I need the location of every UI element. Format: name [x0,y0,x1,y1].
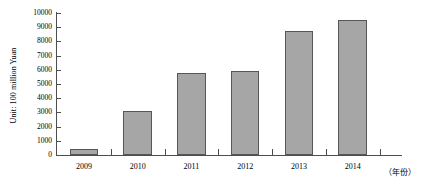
y-axis-tick-label-text: 10000 [22,9,52,17]
y-axis-tick-label-text: 5000 [22,80,52,88]
x-axis-tick-label: 2011 [166,162,216,172]
bar [123,111,151,155]
y-axis-tick-label: 2000 [18,123,52,131]
y-axis-tick-label-text: 6000 [22,66,52,74]
y-axis-tick-label: 10000 [18,9,52,17]
x-axis-tick [326,149,327,155]
x-axis-tick-label: 2009 [59,162,109,172]
x-axis-tick [272,149,273,155]
y-axis-tick-label: 3000 [18,108,52,116]
bar [177,73,205,155]
y-axis-tick-label-text: 4000 [22,94,52,102]
y-axis-tick-label-text: 3000 [22,108,52,116]
y-axis-tick-label: 8000 [18,37,52,45]
bar [231,71,259,155]
x-axis-tick [218,149,219,155]
y-axis-tick-label-text: 8000 [22,37,52,45]
y-axis-tick-label: 7000 [18,52,52,60]
x-axis-tick [165,149,166,155]
y-axis-tick-label: 9000 [18,23,52,31]
bar-chart-figure: Unit: 100 million Yuan 01000200030004000… [0,0,428,192]
x-axis-tick [111,149,112,155]
bar [285,31,313,155]
y-axis-tick-label: 6000 [18,66,52,74]
x-axis-tick [380,149,381,155]
y-axis-tick-label-text: 7000 [22,52,52,60]
y-axis-tick-label: 1000 [18,137,52,145]
x-axis-tick-label: 2010 [113,162,163,172]
bar [70,149,98,155]
x-axis-tick-label: 2012 [220,162,270,172]
y-axis-tick-label-text: 2000 [22,123,52,131]
y-axis-tick-label-text: 1000 [22,137,52,145]
x-axis-line [57,155,402,156]
y-axis-tick-label: 0 [18,151,52,159]
bar [338,20,366,155]
plot-area [57,13,400,155]
x-axis-tick-label: 2013 [274,162,324,172]
y-axis-tick-label-text: 9000 [22,23,52,31]
y-axis-tick-label-text: 0 [22,151,52,159]
y-axis-tick-label: 5000 [18,80,52,88]
x-axis-unit-label: （年份） [384,168,416,178]
x-axis-tick-label: 2014 [328,162,378,172]
y-axis-tick-label: 4000 [18,94,52,102]
